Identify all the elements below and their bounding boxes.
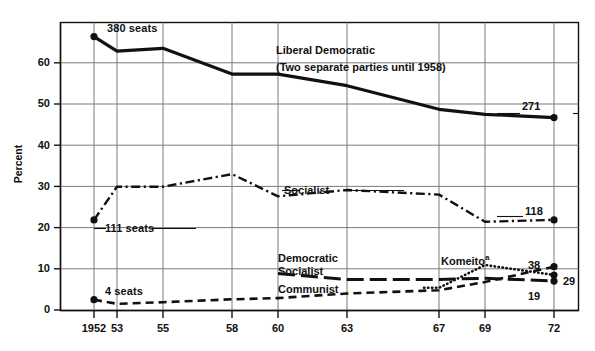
endlabel-271: 271 bbox=[522, 100, 540, 112]
x-tick-67: 67 bbox=[427, 322, 451, 334]
x-tick-53: 53 bbox=[105, 322, 129, 334]
komeito-footnote-marker: a bbox=[485, 253, 489, 262]
y-tick-60: 60 bbox=[24, 56, 50, 68]
x-tick-72: 72 bbox=[542, 322, 566, 334]
callout-380-seats: 380 seats bbox=[107, 22, 157, 34]
y-axis bbox=[54, 23, 61, 311]
y-tick-50: 50 bbox=[24, 97, 50, 109]
series-label-socialist: Socialist bbox=[284, 184, 329, 196]
y-tick-10: 10 bbox=[24, 262, 50, 274]
endlabel-118: 118 bbox=[525, 205, 543, 217]
series-label-liberal-democratic-line2: (Two separate parties until 1958) bbox=[276, 61, 446, 73]
endlabel-19: 19 bbox=[528, 290, 540, 302]
x-tick-55: 55 bbox=[151, 322, 175, 334]
series-label-democratic-socialist-line1: Democratic bbox=[278, 252, 338, 264]
x-axis bbox=[61, 311, 579, 319]
series-label-komeito: Komeitoa bbox=[441, 253, 489, 267]
endlabel-38: 38 bbox=[528, 259, 540, 271]
x-tick-69: 69 bbox=[473, 322, 497, 334]
y-gridlines bbox=[61, 63, 579, 269]
chart-container: Percent 60 50 40 30 20 10 0 1952 53 55 5… bbox=[0, 0, 595, 351]
series-label-liberal-democratic-line1: Liberal Democratic bbox=[276, 44, 375, 56]
series-socialist bbox=[90, 174, 557, 223]
annotation-leaders bbox=[94, 114, 578, 229]
series-label-communist: Communist bbox=[278, 283, 339, 295]
y-tick-30: 30 bbox=[24, 180, 50, 192]
komeito-text: Komeito bbox=[441, 255, 485, 267]
x-tick-63: 63 bbox=[335, 322, 359, 334]
callout-111-seats: 111 seats bbox=[105, 222, 154, 234]
y-axis-label: Percent bbox=[12, 134, 24, 194]
y-tick-20: 20 bbox=[24, 221, 50, 233]
x-tick-58: 58 bbox=[220, 322, 244, 334]
series-label-democratic-socialist-line2: Socialist bbox=[278, 265, 323, 277]
endlabel-29: 29 bbox=[563, 275, 575, 287]
x-tick-60: 60 bbox=[266, 322, 290, 334]
y-tick-0: 0 bbox=[24, 303, 50, 315]
callout-4-seats: 4 seats bbox=[105, 285, 143, 297]
y-tick-40: 40 bbox=[24, 139, 50, 151]
